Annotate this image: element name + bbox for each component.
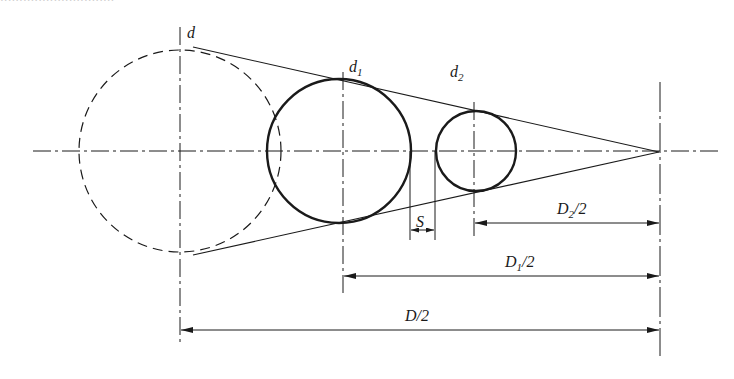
tangent-line-lower: [193, 152, 659, 255]
cone-circles-diagram: d d1 d2 S D2/2 D1/2 D/2: [0, 0, 734, 379]
label-d2: d2: [450, 63, 464, 83]
tangent-line-upper: [193, 47, 659, 152]
label-d: d: [187, 24, 196, 41]
label-d1-half: D1/2: [504, 253, 535, 273]
label-d-half: D/2: [404, 307, 429, 324]
label-d2-half: D2/2: [556, 200, 587, 220]
label-s: S: [416, 213, 424, 230]
label-d1: d1: [349, 58, 363, 78]
